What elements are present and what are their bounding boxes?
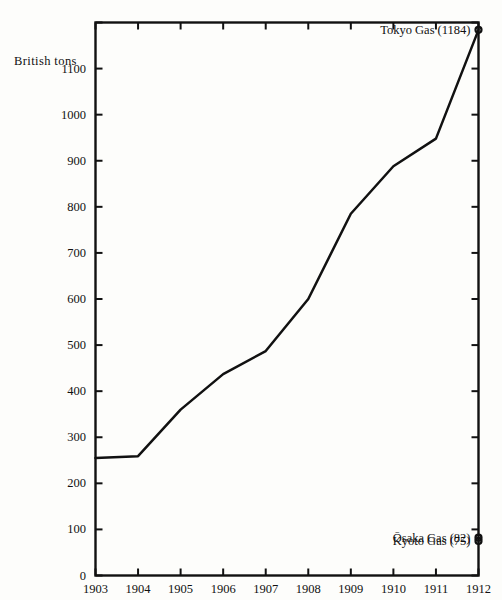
plot-area bbox=[0, 0, 502, 600]
annotation-label: Kyoto Gas (75) bbox=[393, 533, 471, 548]
annotation-tokyo-gas: Tokyo Gas (1184) bbox=[0, 22, 471, 37]
figure-line-chart: British tons 010020030040050060070080090… bbox=[0, 0, 502, 600]
data-series-tokyo-gas bbox=[96, 30, 479, 458]
axis-ticks bbox=[96, 23, 479, 576]
axis-frame bbox=[96, 23, 479, 576]
annotation-kyoto-gas: Kyoto Gas (75) bbox=[0, 533, 471, 548]
annotation-label: Tokyo Gas (1184) bbox=[380, 22, 470, 37]
